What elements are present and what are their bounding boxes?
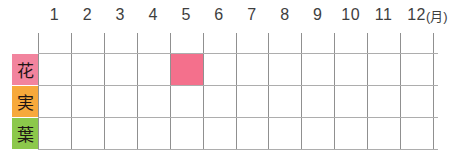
row-label-1: 花 — [12, 54, 38, 85]
grid-vertical-line — [301, 33, 302, 150]
grid-vertical-line — [334, 33, 335, 150]
month-header-9: 9 — [313, 7, 322, 23]
month-header-2: 2 — [83, 7, 92, 23]
grid-vertical-line — [137, 33, 138, 150]
grid-horizontal-line — [38, 149, 438, 150]
seasonal-calendar-figure: 123456789101112 (月) 花実葉 — [0, 0, 462, 165]
grid-horizontal-line — [38, 53, 438, 54]
grid-vertical-line — [71, 33, 72, 150]
grid-vertical-line — [236, 33, 237, 150]
month-header-11: 11 — [375, 7, 393, 23]
grid-vertical-line — [104, 33, 105, 150]
row-label-2: 実 — [12, 86, 38, 117]
grid-vertical-line — [268, 33, 269, 150]
month-header-5: 5 — [181, 7, 190, 23]
grid-vertical-line — [433, 33, 434, 150]
month-header-7: 7 — [247, 7, 256, 23]
month-header-8: 8 — [280, 7, 289, 23]
month-header-3: 3 — [116, 7, 125, 23]
grid-vertical-line — [203, 33, 204, 150]
month-header-4: 4 — [149, 7, 158, 23]
grid-horizontal-line — [38, 85, 438, 86]
row-label-3: 葉 — [12, 118, 38, 149]
month-header-10: 10 — [341, 7, 360, 23]
grid-vertical-line — [38, 33, 39, 150]
month-unit-label: (月) — [426, 10, 448, 23]
month-header-1: 1 — [50, 7, 59, 23]
filled-cell-month-5 — [171, 54, 203, 85]
grid-vertical-line — [400, 33, 401, 150]
grid-horizontal-line — [38, 117, 438, 118]
month-header-12: 12 — [407, 7, 426, 23]
grid-vertical-line — [367, 33, 368, 150]
month-header-6: 6 — [214, 7, 223, 23]
grid-vertical-line — [170, 33, 171, 150]
